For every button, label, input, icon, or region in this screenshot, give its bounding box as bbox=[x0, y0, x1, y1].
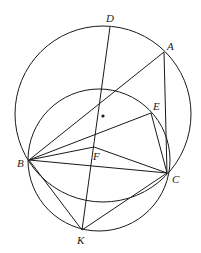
label-e: E bbox=[152, 100, 160, 112]
label-d: D bbox=[105, 12, 114, 24]
label-a: A bbox=[166, 40, 174, 52]
label-k: K bbox=[76, 234, 85, 246]
geometry-diagram: D A E F B C K bbox=[0, 0, 201, 253]
segment-ac bbox=[164, 52, 167, 173]
segment-bf bbox=[29, 147, 94, 160]
label-f: F bbox=[92, 150, 100, 162]
label-c: C bbox=[172, 173, 180, 185]
segment-ab bbox=[29, 52, 164, 160]
segment-dk bbox=[82, 27, 110, 230]
label-b: B bbox=[17, 157, 24, 169]
circle-center-dot bbox=[101, 114, 104, 117]
segment-be bbox=[29, 113, 151, 160]
segments bbox=[29, 27, 167, 230]
